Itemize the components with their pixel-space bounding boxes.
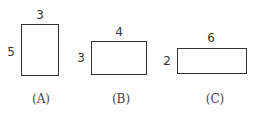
rectangle-b-width-label: 4 — [115, 26, 123, 38]
rectangle-c-width-label: 6 — [207, 32, 215, 44]
rectangle-b — [91, 41, 147, 75]
rectangle-b-caption: (B) — [112, 93, 130, 105]
rectangle-c-caption: (C) — [206, 93, 225, 105]
rectangle-a-caption: (A) — [32, 93, 50, 105]
rectangle-a-height-label: 5 — [7, 46, 15, 58]
rectangle-a — [21, 24, 59, 76]
rectangle-b-height-label: 3 — [77, 52, 85, 64]
rectangle-c-height-label: 2 — [163, 55, 171, 67]
rectangle-c — [177, 48, 247, 74]
rectangle-a-width-label: 3 — [36, 9, 44, 21]
